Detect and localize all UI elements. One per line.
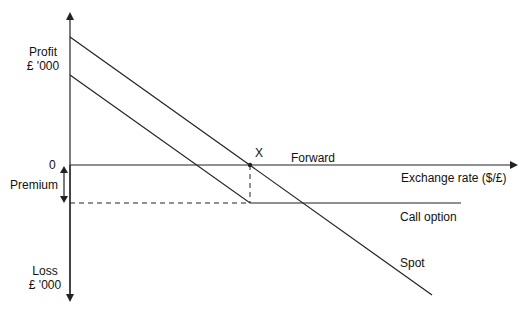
profit-unit: £ '000 — [20, 59, 66, 73]
premium-label: Premium — [10, 178, 58, 192]
point-x-label: X — [255, 146, 263, 160]
profit-text: Profit — [20, 45, 66, 59]
forward-label: Forward — [291, 151, 335, 165]
x-axis-label: Exchange rate ($/£) — [401, 171, 506, 185]
point-x — [248, 163, 252, 167]
profit-label: Profit £ '000 — [20, 45, 66, 73]
loss-text: Loss — [22, 264, 68, 278]
loss-unit: £ '000 — [22, 278, 68, 292]
spot-label: Spot — [400, 256, 425, 270]
call-option-label: Call option — [400, 210, 457, 224]
zero-label: 0 — [49, 158, 56, 172]
loss-label: Loss £ '000 — [22, 264, 68, 292]
